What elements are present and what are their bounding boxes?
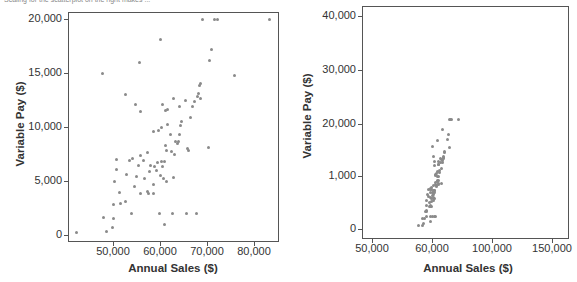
- y-tick: [358, 124, 362, 125]
- y-axis-title: Variable Pay ($): [301, 66, 313, 166]
- data-point: [448, 146, 451, 149]
- data-point: [437, 179, 440, 182]
- data-point: [440, 182, 443, 185]
- y-tick: [358, 70, 362, 71]
- data-point: [435, 172, 438, 175]
- y-tick: [358, 176, 362, 177]
- x-tick-label: 100,000: [462, 242, 522, 254]
- y-tick: [358, 229, 362, 230]
- x-tick-label: 50,000: [342, 242, 402, 254]
- y-tick-label: 40,000: [296, 9, 356, 21]
- plot-frame: [362, 6, 569, 239]
- y-tick-label: 0: [296, 222, 356, 234]
- data-point: [441, 128, 444, 131]
- data-point: [450, 118, 453, 121]
- right-scatterplot: 01,00020,00030,00040,000 50,00060,000100…: [0, 0, 577, 282]
- data-point: [440, 167, 443, 170]
- x-tick-label: 150,000: [522, 242, 577, 254]
- data-point: [446, 138, 449, 141]
- data-point: [431, 145, 434, 148]
- x-axis-title: Annual Sales ($): [408, 262, 528, 274]
- data-point: [447, 133, 450, 136]
- data-point: [434, 215, 437, 218]
- data-point: [457, 118, 460, 121]
- x-tick-label: 60,000: [402, 242, 462, 254]
- y-tick-label: 1,000: [296, 169, 356, 181]
- y-tick: [358, 16, 362, 17]
- data-point: [422, 222, 425, 225]
- data-point: [430, 205, 433, 208]
